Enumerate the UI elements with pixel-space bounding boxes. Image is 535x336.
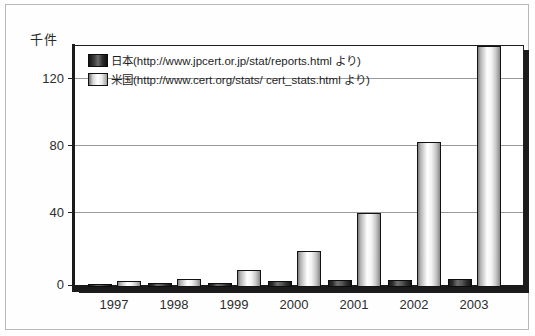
legend-label-japan: 日本(http://www.jpcert.or.jp/stat/reports.… [111, 52, 361, 70]
legend-swatch-japan-icon [88, 54, 108, 67]
y-tick-label-0: 0 [18, 277, 64, 292]
gridline-80 [75, 145, 523, 146]
bar-jp-2003 [448, 279, 472, 287]
bar-us-2000 [297, 251, 321, 287]
x-tick-label-2002: 2002 [391, 297, 437, 312]
bar-us-1997 [117, 281, 141, 287]
x-tick-label-1999: 1999 [211, 297, 257, 312]
bar-jp-2002 [388, 280, 412, 287]
y-tick-mark-0 [68, 285, 74, 286]
y-tick-label-40: 40 [18, 205, 64, 220]
bar-us-1999 [237, 270, 261, 287]
bar-jp-2000 [268, 281, 292, 287]
bar-us-2002 [417, 142, 441, 287]
x-tick-label-2003: 2003 [451, 297, 497, 312]
bar-us-1998 [177, 279, 201, 287]
x-tick-label-2000: 2000 [271, 297, 317, 312]
bar-jp-1997 [88, 284, 112, 287]
y-axis-line [72, 44, 75, 290]
bar-jp-1998 [148, 283, 172, 287]
gridline-40 [75, 212, 523, 213]
chart-legend: 日本(http://www.jpcert.or.jp/stat/reports.… [88, 51, 370, 89]
x-tick-label-2001: 2001 [331, 297, 377, 312]
bar-jp-2001 [328, 280, 352, 287]
y-tick-mark-80 [68, 145, 74, 146]
y-tick-label-80: 80 [18, 138, 64, 153]
legend-label-usa: 米国(http://www.cert.org/stats/ cert_stats… [111, 71, 370, 89]
x-tick-label-1998: 1998 [151, 297, 197, 312]
y-tick-mark-40 [68, 212, 74, 213]
bar-us-2001 [357, 213, 381, 287]
legend-item-usa: 米国(http://www.cert.org/stats/ cert_stats… [88, 70, 370, 89]
y-tick-mark-120 [68, 78, 74, 79]
bar-us-2003 [477, 46, 501, 287]
y-axis-title: 千件 [30, 29, 58, 48]
legend-item-japan: 日本(http://www.jpcert.or.jp/stat/reports.… [88, 51, 370, 70]
legend-swatch-usa-icon [88, 73, 108, 86]
y-tick-label-120: 120 [18, 71, 64, 86]
bar-jp-1999 [208, 283, 232, 287]
x-tick-label-1997: 1997 [91, 297, 137, 312]
chart-figure: 千件 120 80 40 0 1997 1998 1999 2000 2001 … [0, 0, 535, 336]
